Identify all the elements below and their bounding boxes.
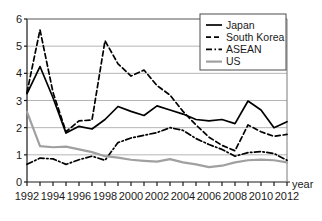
- x-tick-label: 2008: [223, 190, 247, 202]
- line-chart: 0123456 19921994199619982000200220042006…: [0, 0, 322, 221]
- x-tick-label: 2006: [197, 190, 221, 202]
- series-line-japan: [27, 67, 287, 134]
- x-tick-label: 2002: [145, 190, 169, 202]
- legend-label-japan: Japan: [226, 19, 255, 31]
- y-tick-label: 2: [16, 122, 22, 134]
- legend-label-south-korea: South Korea: [226, 31, 285, 43]
- x-tick-labels: 1992199419961998200020022004200620082010…: [15, 190, 299, 202]
- x-tick-label: 2012: [275, 190, 299, 202]
- series-line-us: [27, 112, 287, 167]
- x-tick-label: 1996: [67, 190, 91, 202]
- y-tick-label: 0: [16, 176, 22, 188]
- legend-label-asean: ASEAN: [226, 43, 262, 55]
- x-tick-label: 2004: [171, 190, 195, 202]
- chart-container: 0123456 19921994199619982000200220042006…: [0, 0, 322, 221]
- x-tick-label: 1998: [93, 190, 117, 202]
- y-tick-label: 3: [16, 95, 22, 107]
- y-axis: [24, 19, 27, 182]
- x-axis-title: year: [292, 178, 314, 190]
- legend: JapanSouth KoreaASEANUS: [200, 14, 286, 70]
- y-tick-label: 5: [16, 40, 22, 52]
- x-tick-label: 1992: [15, 190, 39, 202]
- y-tick-label: 4: [16, 67, 22, 79]
- x-tick-label: 2010: [249, 190, 273, 202]
- x-tick-label: 2000: [119, 190, 143, 202]
- x-axis: [27, 182, 290, 186]
- y-tick-label: 1: [16, 149, 22, 161]
- x-tick-label: 1994: [41, 190, 65, 202]
- legend-label-us: US: [226, 55, 241, 67]
- y-tick-label: 6: [16, 13, 22, 25]
- y-tick-labels: 0123456: [16, 13, 22, 188]
